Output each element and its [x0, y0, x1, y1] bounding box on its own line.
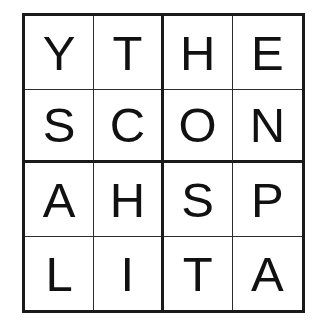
grid-cell-r2c2[interactable]: C	[94, 90, 163, 164]
grid-cell-r4c2[interactable]: I	[94, 237, 163, 311]
cell-letter-r3c4: P	[251, 176, 284, 225]
cell-letter-r3c2: H	[110, 176, 145, 225]
grid-cell-r4c3[interactable]: T	[164, 237, 233, 311]
cell-letter-r1c4: E	[251, 29, 284, 78]
cell-letter-r2c1: S	[43, 101, 76, 150]
puzzle-root: Y T H E S C O N A H S	[0, 0, 321, 333]
cell-letter-r4c3: T	[183, 250, 213, 299]
grid-cell-r2c3[interactable]: O	[164, 90, 233, 164]
grid-cell-r4c1[interactable]: L	[25, 237, 94, 311]
cell-letter-r4c2: I	[121, 250, 135, 299]
grid-cell-r3c4[interactable]: P	[233, 163, 302, 237]
cell-letter-r2c3: O	[179, 101, 217, 150]
cell-letter-r1c2: T	[112, 29, 142, 78]
cell-letter-r3c3: S	[181, 176, 214, 225]
grid-cell-r2c4[interactable]: N	[233, 90, 302, 164]
grid-cell-r4c4[interactable]: A	[233, 237, 302, 311]
cell-letter-r1c3: H	[180, 29, 215, 78]
grid-cell-r3c1[interactable]: A	[25, 163, 94, 237]
cell-letter-r2c4: N	[250, 101, 285, 150]
cell-letter-r3c1: A	[43, 176, 76, 225]
letter-grid: Y T H E S C O N A H S	[22, 13, 305, 313]
grid-cell-r3c3[interactable]: S	[164, 163, 233, 237]
cell-letter-r4c1: L	[45, 250, 72, 299]
grid-cell-r3c2[interactable]: H	[94, 163, 163, 237]
grid-cell-r1c2[interactable]: T	[94, 16, 163, 90]
grid-cell-r2c1[interactable]: S	[25, 90, 94, 164]
cell-letter-r1c1: Y	[43, 29, 76, 78]
grid-cell-r1c3[interactable]: H	[164, 16, 233, 90]
cell-letter-r4c4: A	[251, 250, 284, 299]
cell-letter-r2c2: C	[110, 101, 145, 150]
grid-cell-r1c1[interactable]: Y	[25, 16, 94, 90]
grid-cell-r1c4[interactable]: E	[233, 16, 302, 90]
